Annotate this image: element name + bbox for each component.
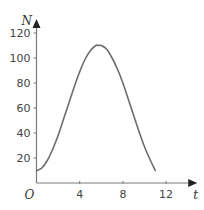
y-tick-label: 40 (17, 127, 31, 140)
x-axis-arrow-icon (188, 179, 197, 187)
series-line-n-t- (37, 45, 156, 170)
y-tick-label: 80 (17, 77, 31, 90)
y-tick-label: 20 (17, 152, 31, 165)
y-tick-label: 120 (10, 27, 31, 40)
x-tick-label: 8 (119, 188, 126, 201)
origin-label: O (25, 188, 35, 202)
y-ticks: 20406080100120 (10, 27, 37, 165)
x-ticks: 4812 (76, 181, 173, 201)
y-tick-label: 60 (17, 102, 31, 115)
x-tick-label: 4 (76, 188, 83, 201)
chart: t N O 4812 20406080100120 (0, 0, 204, 210)
y-axis-arrow-icon (33, 19, 41, 28)
y-tick-label: 100 (10, 52, 31, 65)
axes: t N O (21, 14, 199, 202)
series (37, 45, 156, 170)
x-axis-label: t (193, 188, 198, 202)
y-axis-label: N (21, 14, 33, 28)
x-tick-label: 12 (159, 188, 173, 201)
